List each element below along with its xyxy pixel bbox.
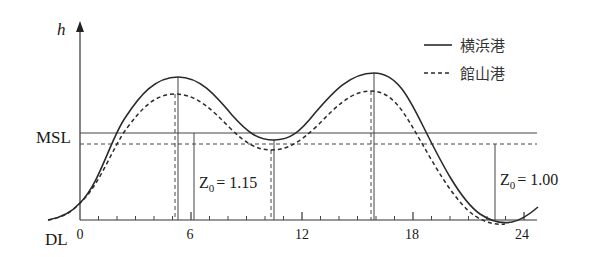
legend-label-yokohama: 横浜港	[460, 37, 505, 55]
legend: 横浜港 館山港	[424, 37, 505, 83]
yokohama-tide-curve	[48, 73, 538, 223]
z0-tateyama-annotation: Z0= 1.00	[500, 171, 558, 191]
dl-label: DL	[45, 230, 68, 249]
x-tick-18: 18	[405, 227, 419, 242]
tide-chart: h 0 6 12 18 24 DL MSL	[0, 0, 594, 257]
x-tick-24: 24	[515, 227, 529, 242]
x-tick-12: 12	[295, 227, 309, 242]
legend-label-tateyama: 館山港	[460, 65, 505, 83]
x-tick-0: 0	[77, 227, 84, 242]
y-axis-arrow-icon	[76, 21, 84, 32]
tateyama-tide-curve	[48, 91, 505, 224]
x-tick-6: 6	[187, 227, 194, 242]
msl-label: MSL	[36, 128, 71, 147]
z0-yokohama-annotation: Z0= 1.15	[199, 174, 257, 194]
x-axis-ticks	[99, 212, 525, 220]
y-axis-label: h	[57, 20, 66, 39]
